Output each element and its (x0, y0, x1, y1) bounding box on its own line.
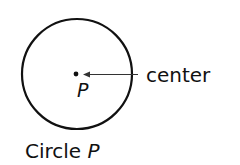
center-point (74, 72, 79, 77)
circle-diagram: P center Circle P (0, 0, 240, 165)
caption-var: P (88, 139, 101, 163)
pointer-label: center (146, 63, 211, 87)
center-arrow (83, 72, 138, 78)
arrowhead-icon (83, 72, 90, 78)
center-label: P (77, 79, 89, 101)
caption: Circle P (25, 139, 101, 163)
caption-prefix: Circle (25, 139, 88, 163)
